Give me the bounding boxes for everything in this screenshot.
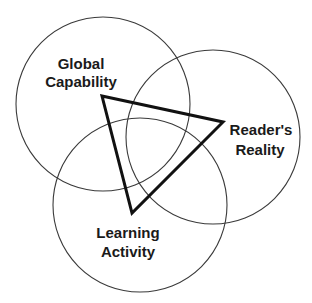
venn-diagram: Global Capability Reader's Reality Learn… <box>0 0 312 303</box>
label-global-line1: Global <box>58 55 105 72</box>
label-global-line2: Capability <box>45 73 117 90</box>
connecting-triangle <box>102 96 223 213</box>
label-reader-line2: Reality <box>235 141 285 158</box>
label-learning-activity: Learning Activity <box>96 224 159 260</box>
label-global-capability: Global Capability <box>45 55 117 90</box>
label-learning-line2: Activity <box>101 243 156 260</box>
label-learning-line1: Learning <box>96 224 159 241</box>
label-reader-line1: Reader's <box>230 121 293 138</box>
label-readers-reality: Reader's Reality <box>230 121 293 158</box>
